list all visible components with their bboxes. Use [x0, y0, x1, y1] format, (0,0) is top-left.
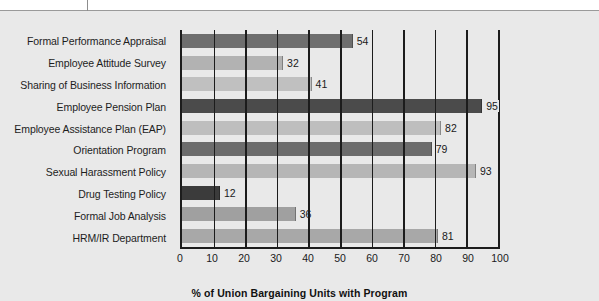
bar-value-label: 32 — [286, 57, 300, 69]
bar: 82 — [182, 121, 441, 135]
category-label: Employee Attitude Survey — [8, 52, 173, 74]
bar: 12 — [182, 186, 220, 200]
x-axis-title: % of Union Bargaining Units with Program — [0, 287, 599, 299]
category-label: Formal Performance Appraisal — [8, 30, 173, 52]
category-label: Sexual Harassment Policy — [8, 161, 173, 183]
bar: 54 — [182, 34, 353, 48]
bar-row: 79 — [182, 139, 498, 161]
bar-row: 41 — [182, 73, 498, 95]
bar-value-label: 82 — [444, 122, 458, 134]
bar-value-label: 95 — [485, 100, 499, 112]
x-tick-label: 20 — [238, 252, 250, 264]
x-tick-label: 40 — [302, 252, 314, 264]
bar: 79 — [182, 142, 432, 156]
bar-row: 93 — [182, 160, 498, 182]
bar-series: 54324195827993123681 — [182, 30, 498, 247]
category-label: Formal Job Analysis — [8, 205, 173, 227]
bar: 81 — [182, 229, 438, 243]
bar-row: 82 — [182, 117, 498, 139]
x-tick-label: 50 — [334, 252, 346, 264]
bar: 93 — [182, 164, 476, 178]
x-tick-label: 10 — [206, 252, 218, 264]
x-tick-label: 80 — [430, 252, 442, 264]
category-label: HRM/IR Department — [8, 227, 173, 249]
page-top-tick-mark — [87, 0, 88, 11]
bar-row: 81 — [182, 225, 498, 247]
bar-value-label: 12 — [223, 187, 237, 199]
bar-value-label: 41 — [315, 78, 329, 90]
x-tick-label: 100 — [491, 252, 509, 264]
x-tick-label: 30 — [270, 252, 282, 264]
category-label: Employee Pension Plan — [8, 96, 173, 118]
bar-row: 54 — [182, 30, 498, 52]
category-axis: Formal Performance AppraisalEmployee Att… — [8, 30, 173, 249]
x-tick-label: 0 — [177, 252, 183, 264]
bar-value-label: 54 — [356, 35, 370, 47]
bar-row: 12 — [182, 182, 498, 204]
bar-value-label: 36 — [299, 208, 313, 220]
chart-canvas: Formal Performance AppraisalEmployee Att… — [0, 11, 599, 301]
bar-row: 36 — [182, 204, 498, 226]
x-tick-label: 60 — [366, 252, 378, 264]
bar-value-label: 79 — [435, 143, 449, 155]
category-label: Employee Assistance Plan (EAP) — [8, 118, 173, 140]
bar-value-label: 93 — [479, 165, 493, 177]
plot-area: 54324195827993123681 — [180, 30, 500, 249]
bar: 41 — [182, 77, 312, 91]
bar: 32 — [182, 56, 283, 70]
x-tick-label: 70 — [398, 252, 410, 264]
x-axis-tick-labels: 0102030405060708090100 — [180, 252, 500, 267]
chart-page: Formal Performance AppraisalEmployee Att… — [0, 0, 599, 301]
category-label: Drug Testing Policy — [8, 183, 173, 205]
category-label: Orientation Program — [8, 140, 173, 162]
bar-value-label: 81 — [441, 230, 455, 242]
category-label: Sharing of Business Information — [8, 74, 173, 96]
bar-row: 32 — [182, 52, 498, 74]
x-tick-label: 90 — [462, 252, 474, 264]
bar-row: 95 — [182, 95, 498, 117]
bar: 95 — [182, 99, 482, 113]
bar: 36 — [182, 207, 296, 221]
